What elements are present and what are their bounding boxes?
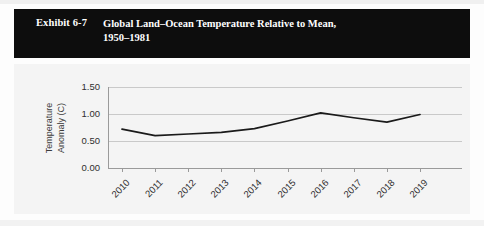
exhibit-title-row: Exhibit 6-7 Global Land–Ocean Temperatur… [36,17,470,44]
exhibit-title-bar: Exhibit 6-7 Global Land–Ocean Temperatur… [14,9,470,58]
exhibit-title-line-2: 1950–1981 [103,31,336,45]
exhibit-title-line-1: Global Land–Ocean Temperature Relative t… [103,17,336,31]
line-series-chart [14,64,470,214]
plot-area: Temperature Anomaly (C) 1.501.000.500.00… [14,64,470,214]
exhibit-page: Exhibit 6-7 Global Land–Ocean Temperatur… [0,0,484,226]
exhibit-number-label: Exhibit 6-7 [36,17,87,28]
page-edge-top [0,0,484,4]
series-line [122,113,420,136]
page-edge-bottom [0,220,484,226]
exhibit-title-text: Global Land–Ocean Temperature Relative t… [103,17,336,44]
chart-panel: Temperature Anomaly (C) 1.501.000.500.00… [14,64,470,214]
